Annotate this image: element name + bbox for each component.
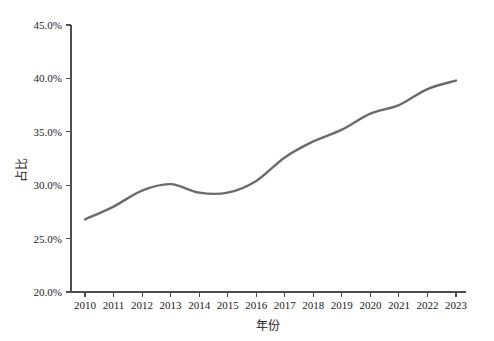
y-tick-label: 20.0%	[34, 286, 62, 298]
x-tick-label: 2022	[416, 299, 438, 311]
x-tick-label: 2017	[274, 299, 297, 311]
x-tick-label: 2012	[131, 299, 153, 311]
y-tick-label: 30.0%	[34, 179, 62, 191]
chart-canvas: 20.0%25.0%30.0%35.0%40.0%45.0% 201020112…	[0, 0, 494, 341]
x-tick-label: 2020	[359, 299, 382, 311]
x-tick-label: 2021	[388, 299, 410, 311]
x-tick-label: 2016	[245, 299, 268, 311]
y-tick-label: 45.0%	[34, 19, 62, 31]
y-tick-label: 40.0%	[34, 72, 62, 84]
x-tick-label: 2015	[217, 299, 240, 311]
y-tick-label: 25.0%	[34, 233, 62, 245]
line-chart: 20.0%25.0%30.0%35.0%40.0%45.0% 201020112…	[0, 0, 494, 341]
x-axis-group: 2010201120122013201420152016201720182019…	[71, 292, 468, 311]
x-tick-label: 2013	[160, 299, 183, 311]
x-axis-title: 年份	[256, 319, 280, 333]
x-tick-label: 2010	[74, 299, 97, 311]
x-tick-label: 2018	[302, 299, 325, 311]
x-tick-label: 2011	[103, 299, 125, 311]
x-tick-label: 2019	[331, 299, 354, 311]
data-series-line	[85, 81, 456, 220]
plot-area	[85, 81, 456, 220]
x-tick-label: 2014	[188, 299, 211, 311]
y-axis-group: 20.0%25.0%30.0%35.0%40.0%45.0%	[34, 19, 71, 298]
y-axis-title: 占比	[14, 158, 29, 182]
x-tick-label: 2023	[445, 299, 468, 311]
y-tick-label: 35.0%	[34, 126, 62, 138]
